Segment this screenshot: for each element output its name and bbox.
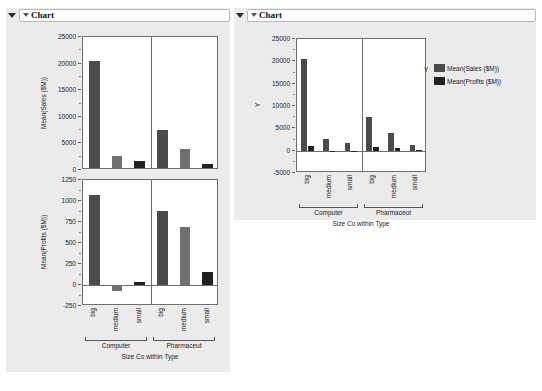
y-tick-mark <box>78 284 81 285</box>
bar <box>366 117 372 151</box>
y-tick-mark <box>78 169 81 170</box>
legend-axis-label: Y <box>424 66 428 73</box>
zero-line <box>297 151 425 152</box>
y-tick-label: -5000 <box>264 169 290 176</box>
y-minor-tick <box>79 103 81 104</box>
bar <box>89 61 99 169</box>
group-label: Computer <box>82 342 150 349</box>
x-axis-title: Size Co within Type <box>82 353 218 360</box>
y-tick-mark <box>78 263 81 264</box>
y-tick-mark <box>78 116 81 117</box>
y-tick-mark <box>78 242 81 243</box>
x-axis-title: Size Co within Type <box>296 220 426 227</box>
y-tick-label: 1250 <box>50 176 76 183</box>
y-tick-mark <box>78 63 81 64</box>
y-tick-label: 15000 <box>50 86 76 93</box>
bar <box>323 139 329 151</box>
y-axis-title: Mean(Profits ($M)) <box>40 179 47 305</box>
triangle-down-small-icon[interactable] <box>23 13 29 17</box>
x-tick-label: medium <box>180 308 187 331</box>
y-minor-tick <box>293 94 295 95</box>
y-tick-label: 5000 <box>264 124 290 131</box>
y-tick-label: 0 <box>50 166 76 173</box>
x-tick-label: big <box>89 308 96 317</box>
right-panel-header-box[interactable]: Chart <box>247 9 536 22</box>
x-tick-label: small <box>346 175 353 190</box>
y-minor-tick <box>293 49 295 50</box>
right-panel-title: Chart <box>259 11 282 20</box>
y-tick-label: -250 <box>50 302 76 309</box>
y-minor-tick <box>79 156 81 157</box>
y-tick-mark <box>292 83 295 84</box>
y-tick-label: 10000 <box>264 102 290 109</box>
y-tick-mark <box>292 105 295 106</box>
triangle-down-small-icon[interactable] <box>251 13 257 17</box>
bar <box>308 146 314 151</box>
left-sales-plot <box>82 36 218 169</box>
y-minor-tick <box>79 190 81 191</box>
bar <box>202 272 212 285</box>
y-tick-label: 20000 <box>50 59 76 66</box>
x-tick-label: medium <box>112 308 119 331</box>
y-tick-mark <box>292 127 295 128</box>
left-panel-title: Chart <box>31 11 54 20</box>
y-tick-label: 15000 <box>264 79 290 86</box>
group-brace <box>85 337 147 341</box>
y-minor-tick <box>79 129 81 130</box>
y-tick-label: 1000 <box>50 197 76 204</box>
legend-label: Mean(Sales ($M)) <box>447 65 499 72</box>
y-minor-tick <box>79 253 81 254</box>
y-minor-tick <box>79 211 81 212</box>
left-profits-plot <box>82 179 218 305</box>
legend-label: Mean(Profits ($M)) <box>447 78 501 85</box>
right-panel-header[interactable]: Chart <box>234 8 536 22</box>
x-tick-label: big <box>157 308 164 317</box>
y-minor-tick <box>293 139 295 140</box>
y-tick-label: 250 <box>50 260 76 267</box>
y-tick-mark <box>292 38 295 39</box>
y-tick-mark <box>292 150 295 151</box>
bar <box>388 133 394 151</box>
legend-swatch <box>434 64 445 72</box>
legend-item[interactable]: Mean(Profits ($M)) <box>434 77 501 85</box>
bar <box>157 130 167 169</box>
y-tick-label: 10000 <box>50 112 76 119</box>
x-tick-label: big <box>303 175 310 184</box>
chart-legend: YMean(Sales ($M))Mean(Profits ($M)) <box>434 64 501 90</box>
legend-item[interactable]: Mean(Sales ($M)) <box>434 64 501 72</box>
y-tick-label: 750 <box>50 218 76 225</box>
y-tick-label: 20000 <box>264 57 290 64</box>
bar <box>134 282 144 285</box>
bar <box>180 149 190 169</box>
y-minor-tick <box>79 49 81 50</box>
triangle-down-icon[interactable] <box>236 13 244 18</box>
zero-line <box>83 285 217 286</box>
right-chart-panel: Chart -50000500010000150002000025000Ybig… <box>234 8 536 220</box>
bar <box>301 59 307 151</box>
y-tick-mark <box>78 36 81 37</box>
bar <box>330 151 336 152</box>
y-axis-title: Y <box>254 38 261 172</box>
group-brace <box>299 204 358 208</box>
legend-swatch <box>434 77 445 85</box>
left-panel-header-box[interactable]: Chart <box>19 9 230 22</box>
x-tick-label: medium <box>390 175 397 198</box>
left-chart-area: 0500010000150002000025000Mean(Sales ($M)… <box>6 22 230 372</box>
triangle-down-icon[interactable] <box>8 13 16 18</box>
bar <box>157 211 167 285</box>
y-minor-tick <box>79 76 81 77</box>
bar <box>345 143 351 151</box>
group-brace <box>364 204 423 208</box>
y-tick-label: 0 <box>264 146 290 153</box>
y-tick-mark <box>292 60 295 61</box>
y-tick-label: 5000 <box>50 139 76 146</box>
left-panel-header[interactable]: Chart <box>6 8 230 22</box>
bar <box>89 195 99 285</box>
left-chart-panel: Chart 0500010000150002000025000Mean(Sale… <box>6 8 230 372</box>
y-tick-mark <box>78 305 81 306</box>
y-tick-mark <box>78 179 81 180</box>
right-chart-area: -50000500010000150002000025000Ybigmedium… <box>234 22 536 220</box>
y-tick-label: 25000 <box>264 35 290 42</box>
y-tick-mark <box>78 89 81 90</box>
y-tick-label: 0 <box>50 281 76 288</box>
